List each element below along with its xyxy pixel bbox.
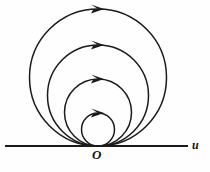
orbit-1-innermost (82, 113, 115, 146)
phase-portrait-figure: O u (0, 0, 210, 172)
origin-label: O (92, 148, 101, 161)
axis-label-u: u (192, 139, 199, 151)
diagram-canvas (0, 0, 210, 172)
arrowhead-group (91, 5, 104, 118)
orbit-3 (48, 45, 149, 146)
arrowhead-orbit-1 (91, 109, 104, 118)
